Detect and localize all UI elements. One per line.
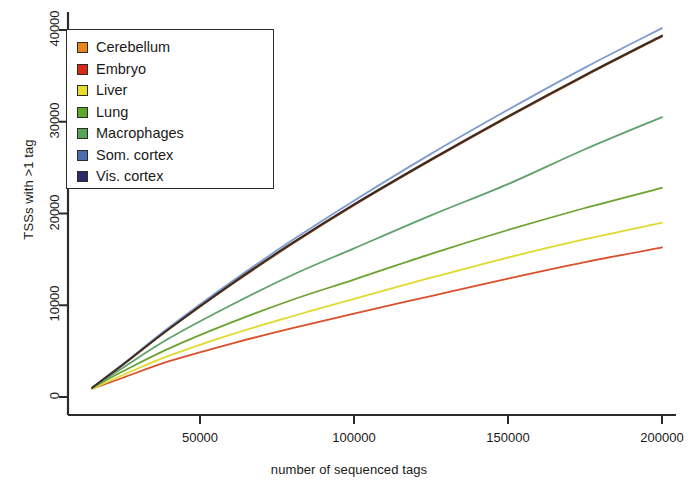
legend-swatch-icon: [77, 107, 88, 118]
y-tick-label: 30000: [47, 75, 62, 165]
legend-swatch-icon: [77, 171, 88, 182]
legend-item[interactable]: Vis. cortex: [77, 166, 273, 187]
y-axis-title: TSSs with >1 tag: [21, 110, 36, 270]
legend-swatch-icon: [77, 128, 88, 139]
series-line: [92, 247, 662, 388]
chart-figure: TSSs with >1 tag number of sequenced tag…: [0, 0, 698, 491]
legend-item[interactable]: Liver: [77, 80, 273, 101]
legend-item-label: Vis. cortex: [96, 169, 163, 184]
series-line: [92, 223, 662, 389]
x-tick-label: 50000: [155, 430, 245, 445]
legend-swatch-icon: [77, 42, 88, 53]
y-tick-label: 10000: [47, 259, 62, 349]
legend-item-label: Cerebellum: [96, 40, 170, 55]
legend-item[interactable]: Cerebellum: [77, 37, 273, 58]
x-tick-label: 150000: [463, 430, 553, 445]
legend-swatch-icon: [77, 85, 88, 96]
y-tick-label: 20000: [47, 167, 62, 257]
legend-swatch-icon: [77, 150, 88, 161]
chart-legend: CerebellumEmbryoLiverLungMacrophagesSom.…: [66, 29, 274, 189]
legend-swatch-icon: [77, 64, 88, 75]
legend-item-label: Embryo: [96, 62, 146, 77]
x-axis-title: number of sequenced tags: [0, 462, 698, 477]
x-tick-label: 200000: [617, 430, 698, 445]
x-tick-label: 100000: [309, 430, 399, 445]
legend-item[interactable]: Macrophages: [77, 123, 273, 144]
legend-item[interactable]: Lung: [77, 102, 273, 123]
legend-item[interactable]: Som. cortex: [77, 145, 273, 166]
legend-item-label: Lung: [96, 105, 128, 120]
legend-item-label: Macrophages: [96, 126, 184, 141]
legend-item-label: Liver: [96, 83, 127, 98]
y-tick-label: 0: [47, 351, 62, 441]
legend-item-label: Som. cortex: [96, 148, 173, 163]
y-tick-label: 40000: [47, 0, 62, 74]
legend-item[interactable]: Embryo: [77, 59, 273, 80]
